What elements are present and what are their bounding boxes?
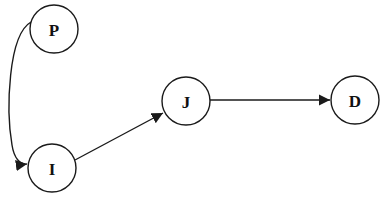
node-j: J [162,77,210,125]
node-label: D [349,92,361,111]
node-i: I [28,144,76,192]
graph-canvas: P I J D [0,0,386,200]
node-label: I [49,160,56,179]
node-d: D [331,76,379,124]
edge-p-to-i [9,22,31,164]
node-label: P [49,21,59,40]
node-label: J [182,93,191,112]
edge-i-to-j [75,113,163,160]
node-p: P [30,5,78,53]
